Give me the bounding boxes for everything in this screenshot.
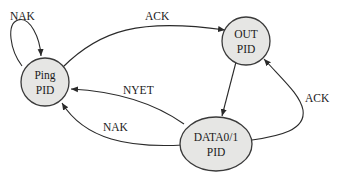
node-out-label-1: OUT: [234, 28, 258, 40]
edge-out-to-data: [222, 62, 236, 116]
node-out: OUT PID: [222, 17, 270, 65]
node-data-label-2: PID: [207, 146, 226, 158]
label-ack-right: ACK: [305, 92, 330, 104]
edge-ping-to-out-ack: [63, 26, 225, 67]
edge-data-to-out-ack: [252, 59, 303, 140]
node-ping: Ping PID: [21, 58, 69, 106]
node-ping-label-2: PID: [36, 84, 55, 96]
node-data: DATA0/1 PID: [180, 117, 252, 171]
label-nak-self: NAK: [10, 10, 36, 22]
node-data-label-1: DATA0/1: [194, 131, 239, 143]
label-nak-bottom: NAK: [103, 121, 129, 133]
node-out-label-2: PID: [237, 43, 256, 55]
label-nyet: NYET: [123, 84, 154, 96]
label-ack-top: ACK: [145, 10, 170, 22]
state-diagram: Ping PID OUT PID DATA0/1 PID NAK ACK ACK…: [0, 0, 337, 178]
node-ping-label-1: Ping: [34, 69, 55, 82]
